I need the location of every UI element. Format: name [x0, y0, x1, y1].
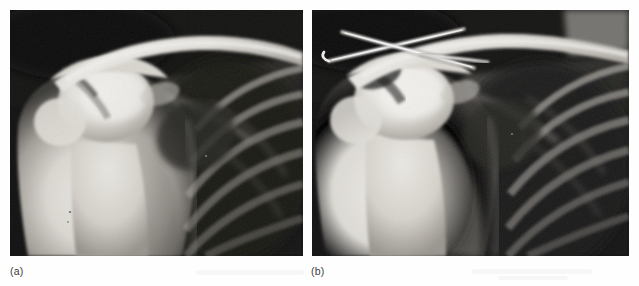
panel-caption-b: (b) [311, 266, 324, 277]
scan-artifact [196, 270, 304, 275]
radiograph-image-a [10, 10, 303, 256]
scan-artifact [472, 269, 592, 274]
radiograph-panel-b [312, 10, 629, 256]
panel-caption-a: (a) [10, 266, 23, 277]
figure-container: (a) (b) [0, 0, 639, 286]
radiograph-panel-a [10, 10, 303, 256]
scan-artifact [498, 276, 568, 280]
radiograph-image-b [312, 10, 629, 256]
